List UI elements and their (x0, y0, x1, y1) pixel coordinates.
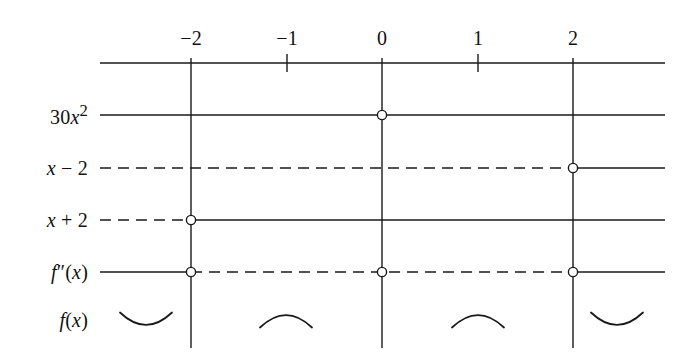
sign-chart-plot (0, 0, 691, 357)
row-f-double-prime-open-circle (377, 267, 386, 276)
arc-concave-down-right-mid (452, 315, 504, 327)
arc-concave-down-left-mid (260, 315, 312, 327)
row-x-plus-2-open-circle (186, 215, 195, 224)
arc-concave-up-right (591, 313, 643, 325)
arc-concave-up-left (120, 313, 172, 325)
row-30x2-open-circle (377, 110, 386, 119)
row-f-double-prime-open-circle (186, 267, 195, 276)
row-f-double-prime-open-circle (568, 267, 577, 276)
row-x-minus-2-open-circle (568, 163, 577, 172)
sign-chart-figure: −2−101230x2x − 2x + 2f″(x)f(x) (0, 0, 691, 357)
